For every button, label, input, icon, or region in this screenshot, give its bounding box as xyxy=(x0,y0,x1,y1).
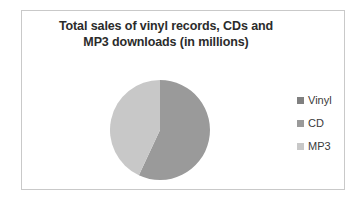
legend-label-vinyl: Vinyl xyxy=(308,95,332,106)
chart-legend: Vinyl CD MP3 xyxy=(297,89,363,158)
pie-chart-svg xyxy=(109,79,211,181)
legend-item-vinyl[interactable]: Vinyl xyxy=(297,89,363,112)
legend-item-mp3[interactable]: MP3 xyxy=(297,135,363,158)
chart-title: Total sales of vinyl records, CDs and MP… xyxy=(32,19,300,50)
chart-title-line-2: MP3 downloads (in millions) xyxy=(32,35,300,51)
legend-item-cd[interactable]: CD xyxy=(297,112,363,135)
pie-chart xyxy=(109,79,211,181)
legend-label-mp3: MP3 xyxy=(308,141,331,152)
legend-label-cd: CD xyxy=(308,118,324,129)
legend-swatch-vinyl xyxy=(297,97,304,104)
legend-swatch-cd xyxy=(297,120,304,127)
legend-swatch-mp3 xyxy=(297,143,304,150)
pie-slice-group xyxy=(110,80,210,180)
chart-title-line-1: Total sales of vinyl records, CDs and xyxy=(32,19,300,35)
chart-frame: Total sales of vinyl records, CDs and MP… xyxy=(21,10,345,190)
